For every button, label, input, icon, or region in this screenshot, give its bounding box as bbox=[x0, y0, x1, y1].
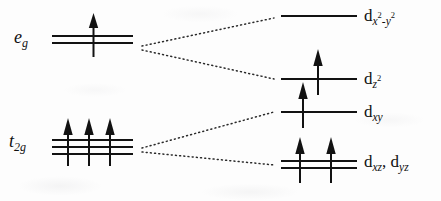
electron-arrow-up-dxy-1 bbox=[298, 82, 307, 128]
correlation-line-eg-to-dx2y2 bbox=[142, 18, 274, 46]
level-group-eg bbox=[52, 13, 133, 57]
electron-arrow-up-t2g-2 bbox=[84, 118, 93, 166]
level-label-t2g: t2g bbox=[9, 132, 26, 153]
orbital-label-dxz-d: d bbox=[364, 152, 373, 171]
level-group-dz2 bbox=[281, 49, 357, 95]
orbital-label-dx2y2-sup2: 2 bbox=[391, 10, 395, 20]
orbital-label-dx2y2-d: d bbox=[364, 6, 373, 25]
level-label-eg-sub: g bbox=[22, 36, 28, 50]
orbital-label-dx2y2-mid: -y bbox=[382, 15, 391, 27]
orbital-label-dz2-d: d bbox=[364, 69, 373, 88]
electron-arrow-up-t2g-3 bbox=[105, 118, 114, 166]
orbital-label-dxy-sub: xy bbox=[373, 111, 383, 123]
orbital-label-dxy-d: d bbox=[364, 102, 373, 121]
orbital-label-dz2-sup1: 2 bbox=[377, 73, 381, 83]
crystal-field-splitting-diagram: eg t2g dx2-y2 dz2 dxy dxz, dyz bbox=[0, 0, 441, 201]
level-group-t2g bbox=[52, 118, 133, 166]
orbital-label-dxz-dyz: dxz, dyz bbox=[364, 153, 409, 174]
electron-arrow-up-dz2-1 bbox=[313, 49, 322, 95]
electron-arrow-up-t2g-1 bbox=[63, 118, 72, 166]
correlation-line-t2g-to-dxz-dyz bbox=[142, 152, 274, 165]
orbital-label-dxy: dxy bbox=[364, 103, 383, 124]
orbital-label-dyz-d: d bbox=[391, 152, 400, 171]
orbital-label-dx2y2: dx2-y2 bbox=[364, 7, 395, 28]
orbital-label-dyz-sub: yz bbox=[399, 161, 409, 173]
correlation-lines-group bbox=[142, 18, 274, 165]
orbital-label-dxz-sub: xz bbox=[373, 161, 383, 173]
level-label-t2g-sub: 2g bbox=[14, 140, 26, 154]
correlation-line-t2g-to-dxy bbox=[142, 112, 274, 148]
orbital-label-dz2: dz2 bbox=[364, 70, 381, 91]
level-group-dxz-dyz bbox=[281, 137, 357, 183]
correlation-line-eg-to-dz2 bbox=[142, 50, 274, 79]
level-label-eg-main: e bbox=[14, 27, 22, 47]
orbital-label-separator: , bbox=[382, 152, 391, 171]
level-label-eg: eg bbox=[14, 28, 28, 49]
